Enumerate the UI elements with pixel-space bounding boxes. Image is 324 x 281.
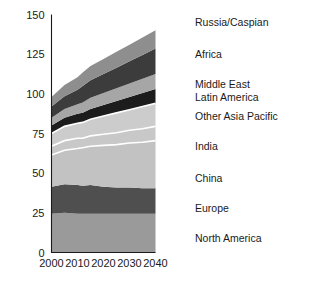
x-tick-label: 2040 <box>143 257 167 269</box>
y-tick-label: 25 <box>32 207 44 219</box>
x-tick-label: 2000 <box>39 257 63 269</box>
y-tick-label: 50 <box>32 167 44 179</box>
legend-label-europe: Europe <box>195 202 229 214</box>
y-tick-label: 150 <box>26 9 44 21</box>
legend-label-middle-east: Middle East <box>195 78 250 90</box>
area-band-north-america <box>52 213 156 253</box>
legend-label-russia-caspian: Russia/Caspian <box>195 16 269 28</box>
x-tick-label: 2030 <box>117 257 141 269</box>
y-tick-label: 75 <box>32 128 44 140</box>
x-tick-label: 2010 <box>65 257 89 269</box>
legend-label-india: India <box>195 140 218 152</box>
area-bands-group <box>52 30 156 252</box>
legend: Russia/CaspianAfricaMiddle EastLatin Ame… <box>195 16 278 244</box>
legend-label-latin-america: Latin America <box>195 91 259 103</box>
y-axis-tick-labels: 0255075100125150 <box>26 9 44 259</box>
y-tick-label: 125 <box>26 48 44 60</box>
y-tick-label: 100 <box>26 88 44 100</box>
legend-label-other-asia-pacific: Other Asia Pacific <box>195 110 278 122</box>
stacked-area-chart-figure: 0255075100125150 20002010202020302040 Ru… <box>0 0 324 281</box>
legend-label-china: China <box>195 172 223 184</box>
x-axis-tick-labels: 20002010202020302040 <box>39 257 167 269</box>
legend-label-africa: Africa <box>195 48 222 60</box>
x-tick-label: 2020 <box>91 257 115 269</box>
area-band-europe <box>52 184 156 213</box>
legend-label-north-america: North America <box>195 232 262 244</box>
chart-canvas: 0255075100125150 20002010202020302040 Ru… <box>0 0 324 281</box>
